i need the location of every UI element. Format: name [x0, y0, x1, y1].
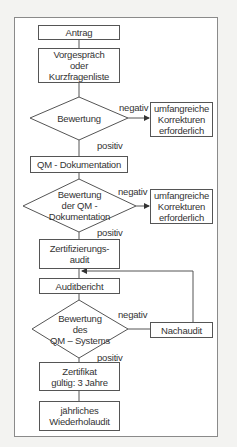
edge-label-negativ-3: negativ [118, 309, 147, 320]
node-qm-dokumentation: QM - Dokumentation [30, 156, 128, 173]
node-vorgespraech-label: Vorgespräch oder Kurzfragenliste [49, 49, 109, 82]
decision-bewertung-qm-system: Bewertung des QM – Systems [32, 303, 128, 355]
node-korrekturen-2: umfangreiche Korrekturen erforderlich [150, 189, 213, 224]
decision-bewertung-qm-system-label: Bewertung des QM – Systems [50, 313, 110, 346]
edge-label-positiv-1: positiv [97, 140, 123, 151]
decision-bewertung-qm-dokumentation-label: Bewertung der QM - Dokumentation [49, 189, 110, 222]
node-antrag-label: Antrag [66, 27, 93, 38]
node-auditbericht-label: Auditbericht [56, 281, 104, 292]
edge-label-positiv-2: positiv [97, 227, 123, 238]
node-korrekturen-1: umfangreiche Korrekturen erforderlich [150, 102, 213, 137]
node-auditbericht: Auditbericht [39, 278, 120, 294]
node-korrekturen-1-label: umfangreiche Korrekturen erforderlich [154, 103, 209, 136]
node-zertifizierungsaudit-label: Zertifizierungs- audit [50, 243, 110, 265]
node-vorgespraech: Vorgespräch oder Kurzfragenliste [38, 48, 120, 83]
node-antrag: Antrag [38, 25, 120, 40]
node-wiederholaudit: jährliches Wiederholaudit [39, 401, 120, 431]
node-zertifikat-label: Zertifikat gültig: 3 Jahre [51, 366, 108, 388]
node-nachaudit-label: Nachaudit [161, 325, 202, 336]
node-wiederholaudit-label: jährliches Wiederholaudit [49, 405, 110, 427]
node-zertifizierungsaudit: Zertifizierungs- audit [39, 239, 120, 269]
decision-bewertung: Bewertung [30, 97, 128, 140]
decision-bewertung-label: Bewertung [57, 113, 101, 124]
node-nachaudit: Nachaudit [150, 322, 213, 338]
node-zertifikat: Zertifikat gültig: 3 Jahre [39, 362, 120, 391]
edge-label-negativ-2: negativ [118, 186, 147, 197]
edge-label-negativ-1: negativ [119, 102, 148, 113]
node-korrekturen-2-label: umfangreiche Korrekturen erforderlich [154, 190, 209, 223]
node-qm-dokumentation-label: QM - Dokumentation [37, 159, 121, 170]
